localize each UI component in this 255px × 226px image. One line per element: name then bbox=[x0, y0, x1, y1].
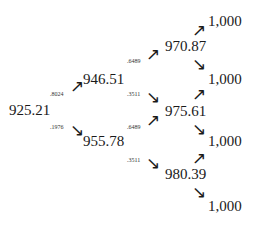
node-leaf-1: 1,000 bbox=[208, 14, 242, 29]
prob-up1-up: .6489 bbox=[127, 58, 141, 64]
arrow-down-icon: ↘ bbox=[192, 121, 206, 138]
arrow-up-icon: ↗ bbox=[192, 22, 206, 39]
node-down1: 955.78 bbox=[83, 134, 124, 149]
node-uu: 970.87 bbox=[165, 39, 206, 54]
arrow-down-icon: ↘ bbox=[146, 89, 160, 106]
prob-up1-down: .3511 bbox=[127, 91, 140, 97]
prob-root-up: .8024 bbox=[50, 91, 64, 97]
prob-root-down: .1976 bbox=[50, 124, 64, 130]
node-root: 925.21 bbox=[9, 103, 50, 118]
arrow-down-icon: ↘ bbox=[146, 155, 160, 172]
arrow-up-icon: ↗ bbox=[192, 150, 206, 167]
prob-down1-up: .6489 bbox=[127, 124, 141, 130]
node-leaf-4: 1,000 bbox=[208, 199, 242, 214]
prob-down1-down: .3511 bbox=[127, 157, 140, 163]
arrow-up-icon: ↗ bbox=[146, 112, 160, 129]
node-leaf-3: 1,000 bbox=[208, 134, 242, 149]
arrow-down-icon: ↘ bbox=[192, 184, 206, 201]
node-ud: 975.61 bbox=[165, 104, 206, 119]
node-leaf-2: 1,000 bbox=[208, 72, 242, 87]
arrow-up-icon: ↗ bbox=[192, 86, 206, 103]
node-dd: 980.39 bbox=[165, 167, 206, 182]
node-up1: 946.51 bbox=[83, 72, 124, 87]
arrow-down-icon: ↘ bbox=[192, 56, 206, 73]
arrow-up-icon: ↗ bbox=[146, 46, 160, 63]
